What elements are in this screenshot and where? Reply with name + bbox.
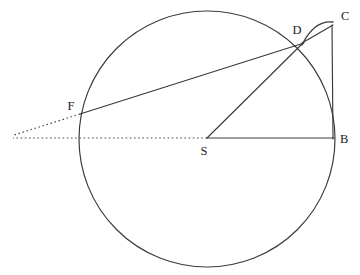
segment-f-d [80,43,304,114]
point-label-s: S [201,144,208,158]
point-label-d: D [292,23,301,37]
geometry-diagram: C D B F S [0,0,360,275]
dotted-extension-secant [14,114,80,135]
point-label-b: B [340,132,348,146]
segment-d-c [302,25,333,43]
point-label-c: C [341,9,349,23]
segment-c-b [332,25,333,139]
segment-s-d [207,43,303,138]
geometry-canvas: C D B F S [0,0,360,275]
point-label-f: F [68,99,75,113]
